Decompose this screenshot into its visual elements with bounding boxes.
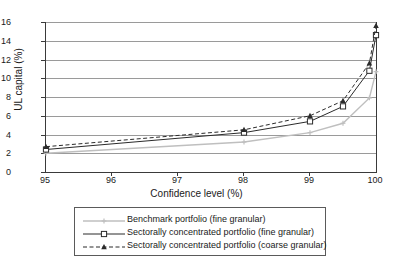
series-line — [46, 72, 376, 154]
data-series-layer — [46, 22, 376, 172]
legend-label: Sectorally concentrated portfolio (fine … — [127, 227, 314, 237]
x-tick-label: 98 — [223, 176, 263, 185]
legend-label: Sectorally concentrated portfolio (coars… — [127, 240, 327, 250]
chart-figure: UL capital (%) 0246810121416 95969798991… — [0, 0, 393, 265]
x-tick-mark — [111, 172, 112, 176]
x-tick-label: 96 — [91, 176, 131, 185]
y-tick-label: 2 — [0, 149, 11, 158]
data-point-marker — [307, 119, 312, 124]
data-point-marker — [308, 130, 313, 135]
data-point-marker — [102, 218, 107, 223]
legend-item: Sectorally concentrated portfolio (coars… — [75, 238, 325, 251]
y-axis-label: UL capital (%) — [13, 20, 24, 140]
data-point-marker — [242, 140, 247, 145]
y-tick-label: 10 — [0, 74, 11, 83]
legend-item: Benchmark portfolio (fine granular) — [75, 212, 325, 225]
data-point-marker — [241, 127, 247, 132]
data-point-marker — [101, 231, 106, 236]
legend-label: Benchmark portfolio (fine granular) — [127, 214, 266, 224]
data-point-marker — [373, 23, 379, 28]
x-tick-label: 99 — [289, 176, 329, 185]
y-tick-label: 6 — [0, 112, 11, 121]
plot-area — [45, 22, 377, 173]
x-tick-mark — [243, 172, 244, 176]
x-tick-label: 97 — [157, 176, 197, 185]
x-tick-label: 95 — [25, 176, 65, 185]
y-tick-label: 0 — [0, 168, 11, 177]
data-point-marker — [340, 98, 346, 103]
data-point-marker — [374, 69, 379, 74]
x-axis-label: Confidence level (%) — [0, 188, 393, 199]
data-point-marker — [340, 104, 345, 109]
x-tick-label: 100 — [355, 176, 393, 185]
x-tick-mark — [177, 172, 178, 176]
y-tick-label: 4 — [0, 131, 11, 140]
y-tick-label: 8 — [0, 93, 11, 102]
chart-legend: Benchmark portfolio (fine granular)Secto… — [74, 207, 326, 256]
x-tick-mark — [309, 172, 310, 176]
legend-item: Sectorally concentrated portfolio (fine … — [75, 225, 325, 238]
legend-key-swatch — [81, 239, 127, 251]
legend-key-swatch — [81, 226, 127, 238]
y-tick-label: 14 — [0, 37, 11, 46]
y-tick-label: 12 — [0, 56, 11, 65]
legend-key-swatch — [81, 213, 127, 225]
data-point-marker — [367, 68, 372, 73]
y-tick-label: 16 — [0, 18, 11, 27]
